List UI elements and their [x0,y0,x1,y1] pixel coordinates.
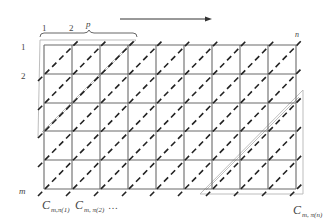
column-label-n: n [295,30,299,39]
column-label-2: 2 [69,23,74,33]
column-brace [40,30,137,37]
grid-diagram: 1 2 p n 1 2 m [0,0,336,221]
bottom-label-cn: C m, π(n) [293,203,323,219]
svg-text:C: C [42,198,51,212]
svg-text:m,π(1): m,π(1) [51,206,70,214]
column-label-p: p [85,19,91,29]
diagonal-dashes [38,40,302,196]
svg-text:C: C [75,198,84,212]
bottom-label-c1: C m,π(1) [42,198,70,214]
svg-text:m, π(2): m, π(2) [84,206,105,214]
bottom-label-c2: C m, π(2) [75,198,105,214]
row-label-1: 1 [21,42,26,52]
column-label-1: 1 [42,23,47,33]
bottom-label-ellipsis: … [108,200,118,211]
direction-arrow [120,17,212,22]
row-label-m: m [19,186,26,196]
svg-text:C: C [293,203,302,217]
svg-text:m, π(n): m, π(n) [302,211,323,219]
row-label-2: 2 [21,71,26,81]
